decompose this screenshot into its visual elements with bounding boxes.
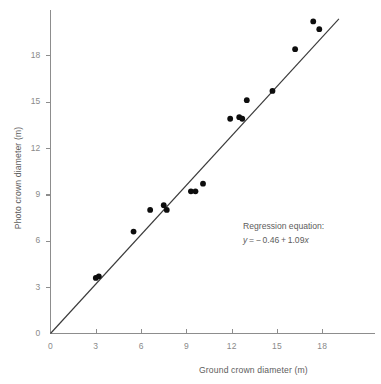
- data-point: [292, 46, 298, 52]
- regression-equation: y = − 0.46 + 1.09x: [243, 233, 324, 247]
- equation-x-variable: x: [304, 235, 308, 245]
- data-point: [147, 207, 153, 213]
- y-axis-title: Photo crown diameter (m): [13, 108, 23, 248]
- x-tick-label: 6: [130, 342, 152, 351]
- y-tick-label: 18: [19, 51, 41, 60]
- data-point: [164, 207, 170, 213]
- y-tick-label: 3: [19, 283, 41, 292]
- data-point: [244, 97, 250, 103]
- data-point: [131, 229, 137, 235]
- data-point: [200, 181, 206, 187]
- x-tick-label: 3: [85, 342, 107, 351]
- data-point: [239, 116, 245, 122]
- data-point: [270, 88, 276, 94]
- y-tick-label: 15: [19, 97, 41, 106]
- data-point: [227, 116, 233, 122]
- x-axis-title: Ground crown diameter (m): [199, 365, 308, 375]
- data-point: [316, 26, 322, 32]
- plot-canvas: [0, 0, 381, 384]
- y-tick-label: 0: [19, 329, 41, 338]
- x-tick-label: 12: [221, 342, 243, 351]
- x-tick-label: 0: [40, 342, 62, 351]
- regression-line: [51, 19, 339, 334]
- scatter-plot-figure: 0369121518 0369121518 Ground crown diame…: [0, 0, 381, 384]
- tick-marks: [46, 56, 323, 334]
- data-point: [96, 273, 102, 279]
- equation-body: = − 0.46 + 1.09: [247, 235, 304, 245]
- x-tick-label: 15: [266, 342, 288, 351]
- regression-annotation-title: Regression equation:: [243, 219, 324, 233]
- data-point: [310, 19, 316, 25]
- x-tick-label: 18: [311, 342, 333, 351]
- data-point: [193, 188, 199, 194]
- x-tick-label: 9: [175, 342, 197, 351]
- regression-annotation: Regression equation: y = − 0.46 + 1.09x: [243, 219, 324, 247]
